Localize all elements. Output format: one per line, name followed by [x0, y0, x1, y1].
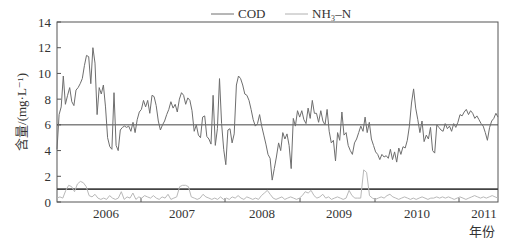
legend-cod-label: COD: [238, 6, 265, 21]
plot-frame: [57, 22, 498, 202]
y-tick-label: 14: [38, 15, 52, 30]
y-tick-label: 0: [45, 195, 52, 210]
x-tick-label: 2006: [93, 206, 120, 221]
y-tick-label: 10: [38, 66, 51, 81]
nh3-n-series-line: [57, 170, 498, 200]
x-tick-label: 2009: [326, 206, 352, 221]
y-tick-label: 8: [45, 92, 52, 107]
legend: COD NH₃–N: [211, 6, 352, 21]
legend-nh3-label: NH₃–N: [312, 6, 352, 21]
y-tick-label: 6: [45, 117, 52, 132]
cod-series-line: [57, 48, 498, 180]
x-tick-label: 2007: [169, 206, 196, 221]
x-tick-label: 2008: [249, 206, 275, 221]
y-axis-ticks: 02468101214: [38, 15, 61, 210]
x-tick-label: 2011: [471, 206, 497, 221]
y-tick-label: 2: [45, 169, 52, 184]
y-axis-title: 含量/(mg·L⁻¹): [14, 73, 29, 151]
x-axis-ticks: 200620072008200920102011: [93, 198, 497, 221]
line-chart: 02468101214 200620072008200920102011 COD…: [0, 0, 512, 249]
reference-lines: [57, 125, 498, 189]
x-tick-label: 2010: [404, 206, 430, 221]
y-tick-label: 4: [45, 143, 52, 158]
x-axis-title: 年份: [469, 224, 495, 239]
y-tick-label: 12: [38, 40, 51, 55]
